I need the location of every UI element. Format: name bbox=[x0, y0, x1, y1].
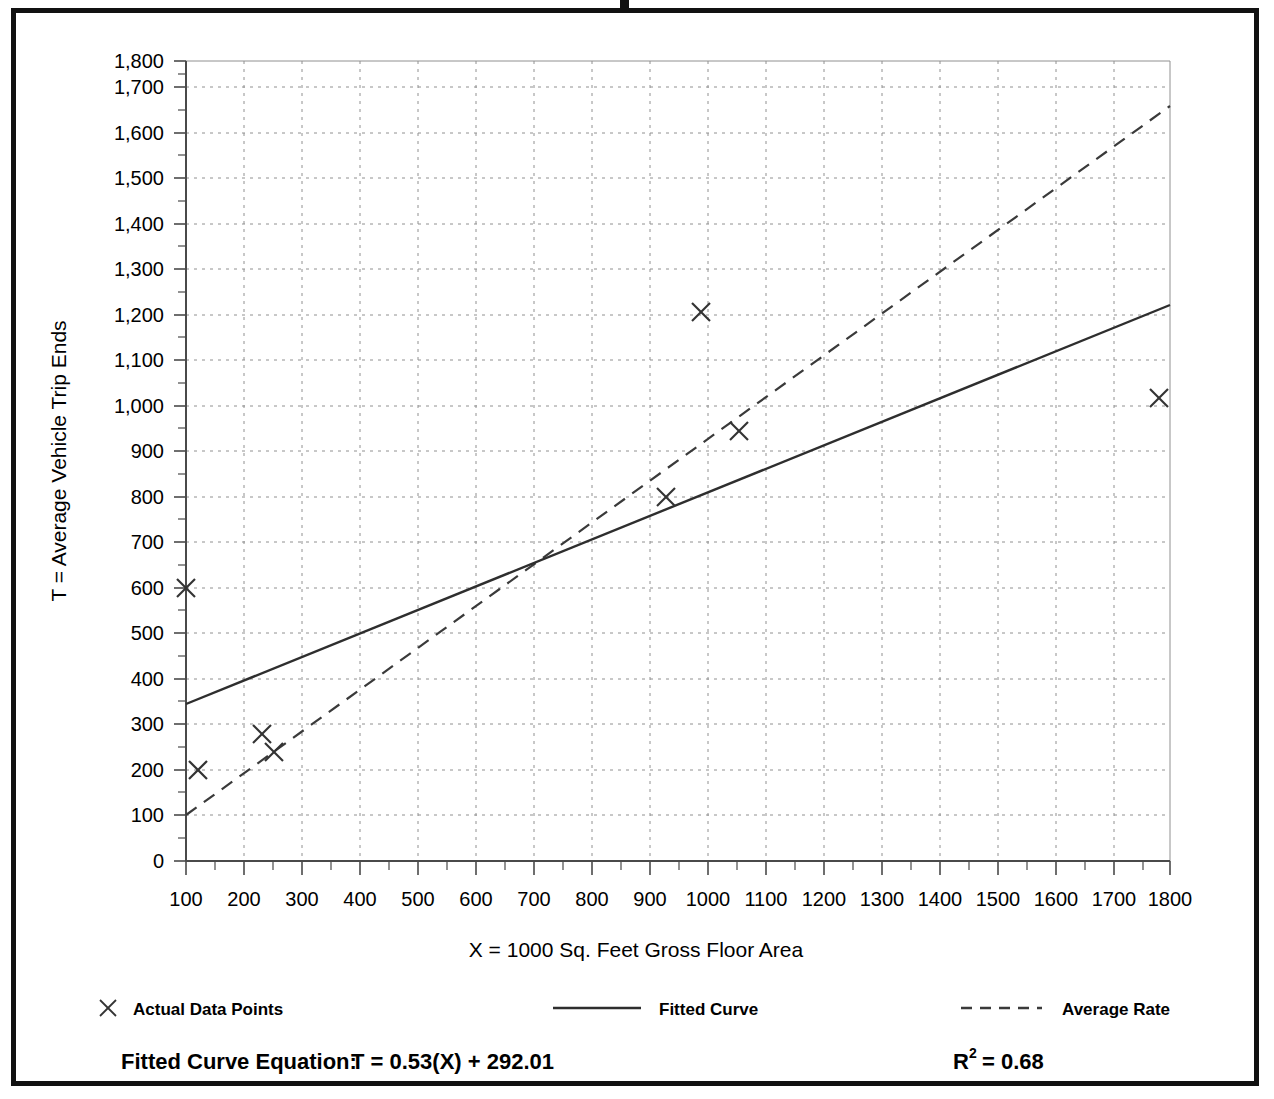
x-tick-label: 1700 bbox=[1092, 888, 1137, 910]
y-tick-label: 1,100 bbox=[114, 349, 164, 371]
y-tick-label: 200 bbox=[131, 759, 164, 781]
y-tick-label: 800 bbox=[131, 486, 164, 508]
r-squared-base: R bbox=[953, 1049, 969, 1074]
y-tick-label: 500 bbox=[131, 622, 164, 644]
fitted-curve-equation-label: Fitted Curve Equation: bbox=[121, 1049, 357, 1074]
y-tick-label: 400 bbox=[131, 668, 164, 690]
y-axis-title: T = Average Vehicle Trip Ends bbox=[47, 320, 70, 601]
x-tick-label: 900 bbox=[633, 888, 666, 910]
y-tick-label: 300 bbox=[131, 713, 164, 735]
plot-background bbox=[16, 13, 1254, 1081]
x-axis-title: X = 1000 Sq. Feet Gross Floor Area bbox=[469, 938, 804, 961]
x-tick-label: 100 bbox=[169, 888, 202, 910]
y-tick-label: 1,200 bbox=[114, 304, 164, 326]
y-tick-label: 1,700 bbox=[114, 76, 164, 98]
x-tick-label: 600 bbox=[459, 888, 492, 910]
y-tick-label: 700 bbox=[131, 531, 164, 553]
y-tick-label: 1,000 bbox=[114, 395, 164, 417]
r-squared-number: = 0.68 bbox=[982, 1049, 1044, 1074]
x-tick-label: 1400 bbox=[918, 888, 963, 910]
y-tick-label: 900 bbox=[131, 440, 164, 462]
y-tick-label: 1,400 bbox=[114, 213, 164, 235]
x-tick-label: 700 bbox=[517, 888, 550, 910]
fitted-curve-equation-value: T = 0.53(X) + 292.01 bbox=[351, 1049, 554, 1074]
chart-page: 0 100 200 300 400 500 600 700 800 900 1,… bbox=[0, 0, 1274, 1099]
x-tick-label: 300 bbox=[285, 888, 318, 910]
y-tick-label: 1,600 bbox=[114, 122, 164, 144]
x-tick-label: 200 bbox=[227, 888, 260, 910]
y-tick-label: 100 bbox=[131, 804, 164, 826]
x-tick-label: 1800 bbox=[1148, 888, 1193, 910]
y-tick-label: 600 bbox=[131, 577, 164, 599]
x-tick-label: 1500 bbox=[976, 888, 1021, 910]
legend-label: Fitted Curve bbox=[659, 1000, 758, 1019]
legend-label: Actual Data Points bbox=[133, 1000, 283, 1019]
x-tick-label: 1000 bbox=[686, 888, 731, 910]
x-tick-label: 1600 bbox=[1034, 888, 1079, 910]
x-tick-label: 1100 bbox=[744, 888, 787, 910]
x-tick-label: 400 bbox=[343, 888, 376, 910]
x-tick-label: 1300 bbox=[860, 888, 905, 910]
x-tick-label: 500 bbox=[401, 888, 434, 910]
figure-frame: 0 100 200 300 400 500 600 700 800 900 1,… bbox=[11, 8, 1259, 1086]
r-squared-exponent: 2 bbox=[969, 1045, 977, 1061]
y-tick-label: 1,800 bbox=[114, 50, 164, 72]
scatter-plot: 0 100 200 300 400 500 600 700 800 900 1,… bbox=[16, 13, 1254, 1081]
legend-label: Average Rate bbox=[1062, 1000, 1170, 1019]
y-tick-label: 1,300 bbox=[114, 258, 164, 280]
x-tick-label: 1200 bbox=[802, 888, 847, 910]
y-tick-label: 0 bbox=[153, 850, 164, 872]
x-tick-label: 800 bbox=[575, 888, 608, 910]
y-tick-label: 1,500 bbox=[114, 167, 164, 189]
r-squared-value: R 2 = 0.68 bbox=[953, 1045, 1044, 1074]
